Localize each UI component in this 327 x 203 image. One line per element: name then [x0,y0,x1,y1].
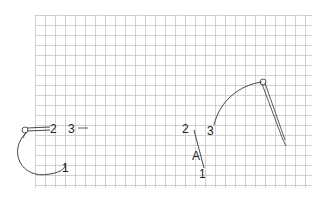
label-1: 1 [199,167,206,181]
label-a: A [192,149,200,163]
arm-line [27,127,50,128]
curve-arc [18,133,66,175]
label-1: 1 [62,161,69,175]
curve-arc [214,82,262,125]
grid [35,15,312,188]
label-3: 3 [207,124,214,138]
label-2: 2 [50,122,57,136]
left-diagram: 2 3 1 [18,122,88,175]
arm-line [265,83,285,140]
arm-line [27,130,50,131]
diagram-canvas: 2 3 1 2 3 A 1 [0,0,327,203]
label-2: 2 [182,122,189,136]
label-3: 3 [68,122,75,136]
